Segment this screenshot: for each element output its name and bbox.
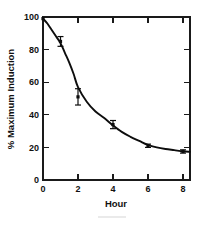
figure-panel: 0 20 40 60 80 100 0 2 4 6 8 Hour % Maxim… — [0, 0, 198, 225]
curve-origin-marker — [41, 17, 44, 20]
y-tick-label: 60 — [29, 77, 39, 87]
data-marker — [146, 144, 149, 147]
caption-remnant — [98, 216, 126, 218]
data-marker — [76, 95, 79, 98]
y-tick-label: 80 — [29, 45, 39, 55]
data-point — [58, 37, 64, 47]
x-tick-label: 0 — [40, 184, 45, 194]
data-series-group — [41, 17, 186, 153]
data-marker — [59, 40, 62, 43]
x-tick-label: 4 — [110, 184, 115, 194]
data-marker — [111, 123, 114, 126]
y-tick-label: 40 — [29, 110, 39, 120]
y-axis-right-ticks — [184, 50, 190, 148]
x-tick-label: 6 — [145, 184, 150, 194]
y-axis-ticks — [43, 17, 49, 180]
y-tick-label: 0 — [34, 175, 39, 185]
x-axis-top-ticks — [78, 17, 183, 23]
x-tick-label: 8 — [180, 184, 185, 194]
x-axis-ticks — [43, 174, 183, 180]
x-tick-labels: 0 2 4 6 8 — [40, 184, 185, 194]
plot-frame — [43, 17, 190, 180]
y-axis-title: % Maximum Induction — [5, 49, 16, 149]
y-tick-label: 100 — [24, 12, 39, 22]
fit-curve-group — [43, 19, 190, 152]
y-tick-label: 20 — [29, 143, 39, 153]
x-tick-label: 2 — [75, 184, 80, 194]
data-marker — [181, 150, 184, 153]
x-axis-title: Hour — [105, 198, 127, 209]
y-tick-labels: 0 20 40 60 80 100 — [24, 12, 39, 185]
chart-plot: 0 20 40 60 80 100 0 2 4 6 8 Hour % Maxim… — [0, 0, 198, 225]
